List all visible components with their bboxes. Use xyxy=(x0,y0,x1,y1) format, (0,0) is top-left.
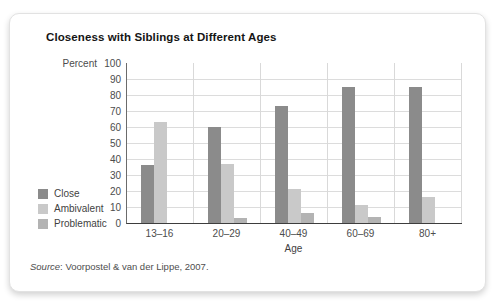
bar-problematic-60–69 xyxy=(368,217,381,223)
bar-close-20–29 xyxy=(208,127,221,223)
y-tick-label: 70 xyxy=(10,106,121,117)
legend-label: Ambivalent xyxy=(54,203,103,214)
v-gridline xyxy=(461,63,462,223)
bar-close-80+ xyxy=(409,87,422,223)
x-tick-label: 80+ xyxy=(394,228,461,239)
legend-label: Problematic xyxy=(54,218,107,229)
source-note: Source: Voorpostel & van der Lippe, 2007… xyxy=(30,261,209,272)
bar-ambivalent-13–16 xyxy=(154,122,167,223)
legend-swatch xyxy=(38,219,48,229)
chart-card: Closeness with Siblings at Different Age… xyxy=(9,13,486,292)
plot-area xyxy=(126,63,462,224)
bar-close-60–69 xyxy=(342,87,355,223)
legend-label: Close xyxy=(54,188,80,199)
h-gridline xyxy=(127,79,462,80)
legend-item-problematic: Problematic xyxy=(38,218,107,229)
legend-swatch xyxy=(38,204,48,214)
v-gridline xyxy=(327,63,328,223)
bar-ambivalent-20–29 xyxy=(221,164,234,223)
y-tick-label: 60 xyxy=(10,122,121,133)
bar-close-40–49 xyxy=(275,106,288,223)
y-tick-label: 100 xyxy=(10,58,121,69)
v-gridline xyxy=(260,63,261,223)
bar-ambivalent-60–69 xyxy=(355,205,368,223)
v-gridline xyxy=(193,63,194,223)
y-tick-label: 30 xyxy=(10,170,121,181)
x-axis-label: Age xyxy=(126,243,461,254)
x-tick-label: 40–49 xyxy=(260,228,327,239)
bar-ambivalent-80+ xyxy=(422,197,435,223)
v-gridline xyxy=(394,63,395,223)
x-tick-label: 60–69 xyxy=(327,228,394,239)
x-tick-label: 13–16 xyxy=(126,228,193,239)
y-tick-label: 80 xyxy=(10,90,121,101)
legend: CloseAmbivalentProblematic xyxy=(38,188,107,233)
legend-swatch xyxy=(38,189,48,199)
bar-ambivalent-40–49 xyxy=(288,189,301,223)
source-citation: : Voorpostel & van der Lippe, 2007. xyxy=(60,261,208,272)
y-tick-label: 90 xyxy=(10,74,121,85)
legend-item-close: Close xyxy=(38,188,107,199)
chart-title: Closeness with Siblings at Different Age… xyxy=(46,31,277,43)
source-word: Source xyxy=(30,261,60,272)
y-tick-label: 40 xyxy=(10,154,121,165)
x-tick-label: 20–29 xyxy=(193,228,260,239)
y-tick-label: 50 xyxy=(10,138,121,149)
legend-item-ambivalent: Ambivalent xyxy=(38,203,107,214)
bar-close-13–16 xyxy=(141,165,154,223)
bar-problematic-40–49 xyxy=(301,213,314,223)
bar-problematic-20–29 xyxy=(234,218,247,223)
